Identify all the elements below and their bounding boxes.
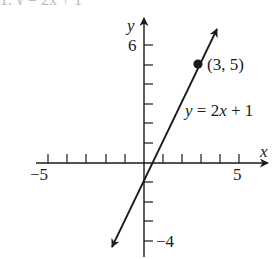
equation-tail: + 1: [227, 101, 254, 120]
point-3-5: [193, 59, 202, 68]
x-axis-label: x: [259, 142, 268, 161]
equation-y: y: [183, 101, 193, 120]
equation-label: y = 2x + 1: [183, 101, 253, 120]
y-tick-label-neg4: −4: [156, 232, 175, 251]
x-tick-label-5: 5: [233, 165, 242, 184]
y-axis-ticks: [144, 45, 153, 241]
y-tick-label-6: 6: [128, 36, 137, 55]
equation-middle: = 2: [193, 101, 220, 120]
coordinate-plane: y 6 −4 x −5 5 (3, 5) y = 2x + 1: [0, 0, 277, 259]
x-tick-label-neg5: −5: [30, 165, 48, 184]
point-label: (3, 5): [207, 55, 244, 74]
y-axis-label: y: [125, 16, 135, 35]
